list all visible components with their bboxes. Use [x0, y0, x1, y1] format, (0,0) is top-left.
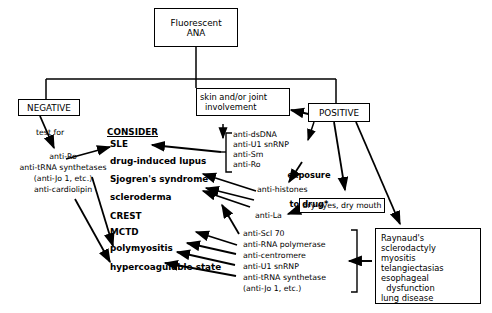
fluorescent-ana-line2: ANA — [170, 28, 221, 38]
consider-item: CREST — [110, 211, 221, 227]
scleroderma-antibody-item: anti-tRNA synthetase — [243, 273, 326, 284]
node-fluorescent-ana: Fluorescent ANA — [154, 8, 238, 47]
clinical-features-list: Raynaud'ssclerodactylymyositistelangiect… — [381, 233, 444, 303]
skin-joint-label: skin and/or joint involvement — [200, 92, 267, 112]
negative-test-item: (anti-Jo 1, etc.) — [8, 174, 118, 185]
node-clinical-features: Raynaud'ssclerodactylymyositistelangiect… — [375, 228, 481, 304]
scleroderma-antibody-item: anti-U1 snRNP — [243, 262, 326, 273]
positive-label: POSITIVE — [319, 108, 359, 118]
node-positive: POSITIVE — [308, 103, 370, 122]
sle-antibody-item: anti-dsDNA — [233, 130, 289, 140]
clinical-feature-item: sclerodactyly — [381, 243, 444, 253]
negative-label: NEGATIVE — [27, 103, 71, 113]
consider-item: polymyositis — [110, 243, 221, 262]
clinical-feature-item: myositis — [381, 253, 444, 263]
scleroderma-antibody-item: anti-RNA polymerase — [243, 240, 326, 251]
fluorescent-ana-label: Fluorescent ANA — [170, 18, 221, 38]
consider-item: scleroderma — [110, 192, 221, 211]
clinical-feature-item: telangiectasias — [381, 263, 444, 273]
exposure-line1: exposure — [284, 171, 334, 181]
consider-item: drug-induced lupus — [110, 156, 221, 174]
diagram-canvas: Fluorescent ANA NEGATIVE POSITIVE skin a… — [0, 0, 492, 313]
anti-la-label: anti-La — [255, 211, 282, 220]
consider-item: Sjogren's syndrome — [110, 174, 221, 192]
clinical-feature-item: lung disease — [381, 293, 444, 303]
scleroderma-antibodies-list: anti-Scl 70anti-RNA polymeraseanti-centr… — [243, 229, 326, 295]
negative-test-item: anti-cardiolipin — [8, 185, 118, 200]
scleroderma-antibody-item: anti-Scl 70 — [243, 229, 326, 240]
node-negative: NEGATIVE — [18, 99, 80, 116]
anti-histones-label: anti-histones — [257, 185, 308, 194]
scleroderma-antibody-item: (anti-Jo 1, etc.) — [243, 284, 326, 295]
fluorescent-ana-line1: Fluorescent — [170, 18, 221, 28]
clinical-feature-item: esophageal — [381, 273, 444, 283]
negative-tests-list: anti-Roanti-tRNA synthetases(anti-Jo 1, … — [8, 152, 118, 200]
consider-list: SLEdrug-induced lupusSjogren's syndromes… — [110, 139, 221, 278]
node-skin-joint-involvement: skin and/or joint involvement — [196, 88, 290, 116]
exposure-line2: to drug* — [284, 200, 334, 210]
consider-item: MCTD — [110, 227, 221, 243]
clinical-feature-item: dysfunction — [381, 283, 444, 293]
negative-test-item: anti-tRNA synthetases — [8, 163, 118, 174]
consider-item: hypercoagulable state — [110, 262, 221, 278]
sle-antibodies-list: anti-dsDNAanti-U1 snRNPanti-Smanti-Ro — [233, 130, 289, 171]
skin-joint-line1: skin and/or joint — [200, 92, 267, 102]
consider-item: SLE — [110, 139, 221, 156]
negative-test-item: anti-Ro — [8, 152, 118, 163]
clinical-feature-item: Raynaud's — [381, 233, 444, 243]
consider-heading: CONSIDER — [107, 127, 158, 137]
scleroderma-antibody-item: anti-centromere — [243, 251, 326, 262]
skin-joint-line2: involvement — [200, 102, 267, 112]
sle-antibody-item: anti-U1 snRNP — [233, 140, 289, 150]
sle-antibody-item: anti-Sm — [233, 150, 289, 160]
test-for-label: test for — [36, 128, 64, 137]
sle-antibody-item: anti-Ro — [233, 160, 289, 171]
